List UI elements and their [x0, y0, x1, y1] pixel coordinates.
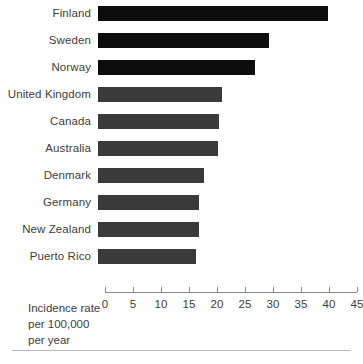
- category-label: Canada: [0, 115, 98, 128]
- bar: [98, 114, 219, 129]
- bar: [98, 168, 204, 183]
- axis-tick: [161, 287, 162, 292]
- bar-row: Sweden: [0, 27, 363, 54]
- bar-track: [98, 189, 363, 216]
- bar: [98, 195, 199, 210]
- bar-row: Puerto Rico: [0, 243, 363, 270]
- category-label: Germany: [0, 196, 98, 209]
- axis-tick: [217, 287, 218, 292]
- x-axis-caption: Incidence rate per 100,000 per year: [28, 300, 123, 348]
- bar-track: [98, 243, 363, 270]
- bar-track: [98, 162, 363, 189]
- axis-tick-label: 10: [155, 298, 168, 311]
- bar: [98, 249, 196, 264]
- category-label: Australia: [0, 142, 98, 155]
- bar-row: United Kingdom: [0, 81, 363, 108]
- axis-tick: [133, 287, 134, 292]
- caption-line-3: per year: [28, 332, 123, 348]
- category-label: Norway: [0, 61, 98, 74]
- x-axis: 051015202530354045: [105, 292, 357, 293]
- bar-track: [98, 216, 363, 243]
- bar-track: [98, 0, 363, 27]
- caption-line-2: per 100,000: [28, 316, 123, 332]
- axis-tick: [301, 287, 302, 292]
- bar-row: Denmark: [0, 162, 363, 189]
- axis-tick: [105, 287, 106, 292]
- bar-track: [98, 81, 363, 108]
- axis-tick-label: 45: [351, 298, 363, 311]
- axis-tick: [245, 287, 246, 292]
- axis-tick-label: 30: [267, 298, 280, 311]
- axis-tick: [329, 287, 330, 292]
- bar: [98, 141, 218, 156]
- axis-tick-label: 40: [323, 298, 336, 311]
- axis-tick-label: 35: [295, 298, 308, 311]
- bar-row: Australia: [0, 135, 363, 162]
- category-label: Denmark: [0, 169, 98, 182]
- axis-tick-label: 15: [183, 298, 196, 311]
- category-label: Finland: [0, 7, 98, 20]
- bar-row: Norway: [0, 54, 363, 81]
- axis-tick-label: 20: [211, 298, 224, 311]
- caption-line-1: Incidence rate: [28, 300, 123, 316]
- axis-tick: [357, 287, 358, 292]
- bar-row: Germany: [0, 189, 363, 216]
- bar: [98, 87, 222, 102]
- category-label: Sweden: [0, 34, 98, 47]
- bar-row: Finland: [0, 0, 363, 27]
- axis-tick-label: 25: [239, 298, 252, 311]
- bar-row: New Zealand: [0, 216, 363, 243]
- bar-chart: FinlandSwedenNorwayUnited KingdomCanadaA…: [0, 0, 363, 364]
- axis-tick: [189, 287, 190, 292]
- bar: [98, 33, 269, 48]
- axis-tick: [273, 287, 274, 292]
- bar: [98, 60, 255, 75]
- category-label: United Kingdom: [0, 88, 98, 101]
- bar: [98, 222, 199, 237]
- axis-tick-label: 5: [130, 298, 136, 311]
- category-label: Puerto Rico: [0, 250, 98, 263]
- bar-track: [98, 108, 363, 135]
- category-label: New Zealand: [0, 223, 98, 236]
- bottom-divider: [12, 350, 351, 351]
- bar-row: Canada: [0, 108, 363, 135]
- bar-track: [98, 135, 363, 162]
- bar-track: [98, 27, 363, 54]
- chart-rows: FinlandSwedenNorwayUnited KingdomCanadaA…: [0, 0, 363, 270]
- bar-track: [98, 54, 363, 81]
- bar: [98, 6, 328, 21]
